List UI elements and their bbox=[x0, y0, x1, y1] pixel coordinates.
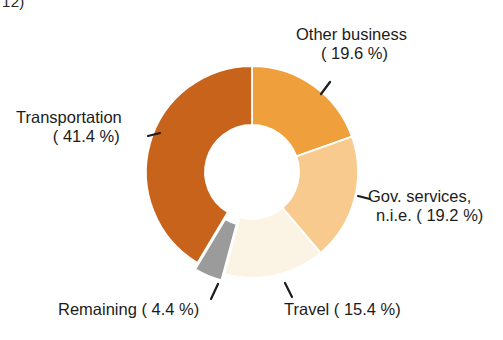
leader-line-travel bbox=[285, 283, 292, 297]
donut-slices-group bbox=[146, 66, 358, 281]
donut-chart-graphic bbox=[0, 0, 503, 340]
slice-label-remaining: Remaining ( 4.4 %) bbox=[58, 300, 199, 319]
slice-label-transportation-value: ( 41.4 %) bbox=[16, 127, 122, 146]
donut-chart-figure: 12) Other business ( 19.6 %) Gov. servic… bbox=[0, 0, 503, 340]
leader-line-remaining bbox=[211, 284, 218, 299]
slice-label-other-business-name: Other business bbox=[296, 25, 407, 44]
slice-label-transportation: Transportation ( 41.4 %) bbox=[16, 108, 122, 146]
slice-label-other-business: Other business ( 19.6 %) bbox=[296, 25, 407, 63]
slice-label-travel: Travel ( 15.4 %) bbox=[284, 300, 401, 319]
slice-label-gov-services: Gov. services, n.i.e. ( 19.2 %) bbox=[368, 187, 483, 225]
slice-label-transportation-name: Transportation bbox=[16, 108, 122, 127]
slice-label-other-business-value: ( 19.6 %) bbox=[296, 44, 407, 63]
slice-label-gov-services-name: Gov. services, bbox=[368, 187, 483, 206]
leader-line-other-business bbox=[321, 82, 330, 94]
slice-label-gov-services-value: n.i.e. ( 19.2 %) bbox=[368, 206, 483, 225]
slice-label-remaining-name-value: Remaining ( 4.4 %) bbox=[58, 300, 199, 319]
slice-label-travel-name-value: Travel ( 15.4 %) bbox=[284, 300, 401, 319]
